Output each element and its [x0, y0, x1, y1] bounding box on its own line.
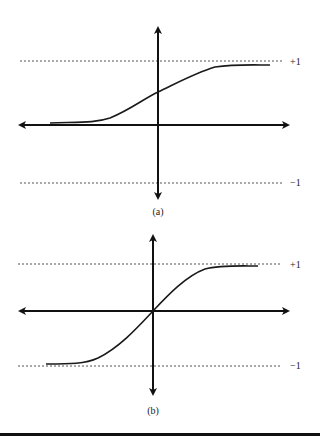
bottom-rule: [0, 433, 320, 436]
sigmoid-curve: [50, 65, 270, 123]
upper-asymptote-label: +1: [290, 56, 301, 68]
upper-asymptote-label: +1: [290, 259, 301, 271]
figure-a: +1 −1 (a): [0, 0, 320, 220]
figure-caption: (a): [152, 206, 163, 218]
sigmoid-plot: [0, 0, 320, 220]
figure-caption: (b): [147, 405, 159, 417]
lower-asymptote-label: −1: [290, 177, 301, 189]
tanh-plot: [0, 220, 320, 437]
figure-b: +1 −1 (b): [0, 220, 320, 437]
lower-asymptote-label: −1: [290, 360, 301, 372]
